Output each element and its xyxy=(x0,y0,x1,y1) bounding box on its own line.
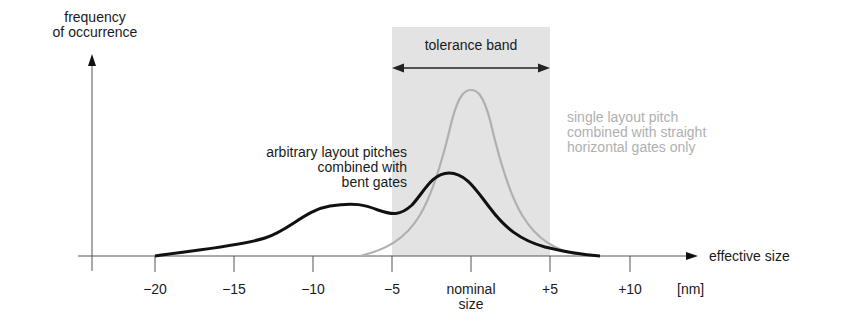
y-axis-label-line1: frequency xyxy=(40,10,150,25)
tick-label-minus10: −10 xyxy=(283,282,343,297)
nominal-label-line1: nominal xyxy=(431,282,511,297)
y-axis-label: frequency of occurrence xyxy=(40,10,150,40)
y-axis xyxy=(88,54,96,271)
tick-label-minus20: −20 xyxy=(125,282,185,297)
tick-label-nominal-size: nominal size xyxy=(431,282,511,312)
x-axis-ticks xyxy=(155,256,630,272)
black-curve-label-line2: combined with xyxy=(220,160,407,175)
x-axis-label: effective size xyxy=(709,249,790,264)
black-curve-label-line1: arbitrary layout pitches xyxy=(220,145,407,160)
tick-label-plus5: +5 xyxy=(520,282,580,297)
unit-label: [nm] xyxy=(677,282,704,297)
tolerance-band-label: tolerance band xyxy=(392,38,550,53)
tick-label-minus15: −15 xyxy=(204,282,264,297)
black-curve-label-line3: bent gates xyxy=(220,175,407,190)
tick-label-minus5: −5 xyxy=(362,282,422,297)
y-axis-arrow-icon xyxy=(88,54,96,66)
gray-curve-label-line3: horizontal gates only xyxy=(567,140,706,155)
y-axis-label-line2: of occurrence xyxy=(40,25,150,40)
black-curve-label: arbitrary layout pitches combined with b… xyxy=(220,145,407,190)
tick-label-plus10: +10 xyxy=(600,282,660,297)
gray-curve-label-line2: combined with straight xyxy=(567,125,706,140)
gray-curve-label: single layout pitch combined with straig… xyxy=(567,110,706,155)
nominal-label-line2: size xyxy=(431,297,511,312)
gray-curve-label-line1: single layout pitch xyxy=(567,110,706,125)
x-axis-arrow-icon xyxy=(686,252,698,260)
